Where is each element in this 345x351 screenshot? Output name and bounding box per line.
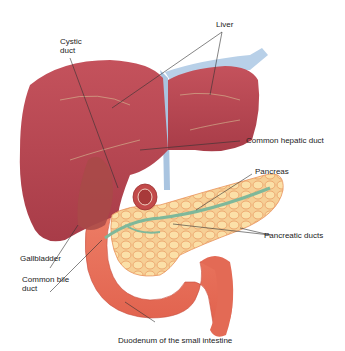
label-pancreas: Pancreas <box>255 167 289 176</box>
label-cystic-duct: Cystic duct <box>60 37 82 55</box>
label-duodenum: Duodenum of the small intestine <box>118 336 232 345</box>
label-liver: Liver <box>216 20 233 29</box>
label-pancreatic-ducts: Pancreatic ducts <box>264 231 323 240</box>
anatomy-diagram: Liver Cystic duct Common hepatic duct Pa… <box>0 0 345 351</box>
label-gallbladder: Gallbladder <box>20 254 61 263</box>
pancreas <box>105 174 283 276</box>
label-common-hepatic-duct: Common hepatic duct <box>246 136 324 145</box>
anatomy-illustration <box>0 0 345 351</box>
duct-cross-section <box>133 184 157 210</box>
label-common-bile-duct: Common bile duct <box>22 275 69 293</box>
